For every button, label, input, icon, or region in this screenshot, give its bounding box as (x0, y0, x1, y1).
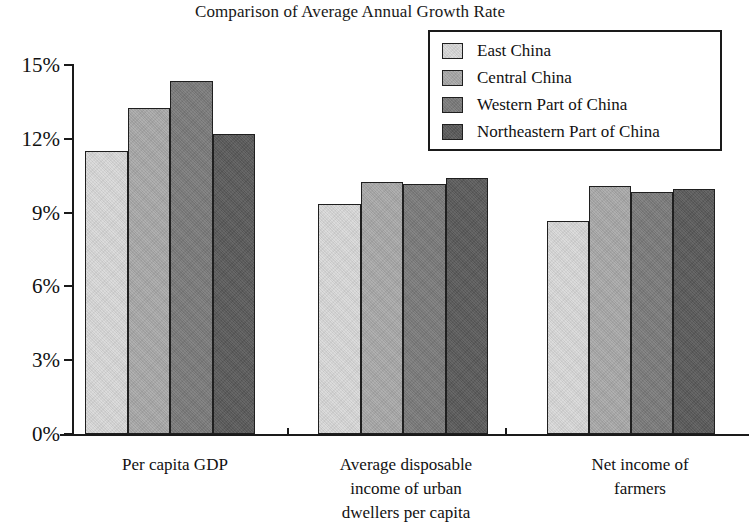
legend-label: Western Part of China (477, 95, 627, 115)
legend-item: Northeastern Part of China (442, 118, 720, 145)
bar-texture (214, 135, 255, 433)
bar-texture (319, 205, 360, 433)
legend-item: East China (442, 37, 720, 64)
bar (673, 189, 715, 434)
legend-swatch (442, 43, 463, 59)
legend-swatch-texture (443, 44, 462, 58)
legend-swatch-texture (443, 125, 462, 139)
bar (85, 151, 128, 434)
legend-label: Central China (477, 68, 572, 88)
category-label-line: Average disposable (290, 453, 522, 477)
x-axis-category-label: Average disposableincome of urbandweller… (290, 453, 522, 525)
growth-rate-bar-chart: Comparison of Average Annual Growth Rate… (0, 0, 749, 528)
bar-texture (171, 82, 212, 433)
bar-texture (590, 187, 630, 433)
legend-label: East China (477, 41, 551, 61)
category-label-line: dwellers per capita (290, 501, 522, 525)
legend-swatch (442, 70, 463, 86)
legend-item: Central China (442, 64, 720, 91)
bar-texture (129, 109, 170, 433)
bar (318, 204, 361, 434)
x-axis-category-label: Per capita GDP (60, 453, 290, 477)
bar (547, 221, 589, 434)
bar (403, 184, 446, 434)
bar-texture (548, 222, 588, 433)
legend-swatch (442, 97, 463, 113)
bar-texture (362, 183, 403, 433)
legend-item: Western Part of China (442, 91, 720, 118)
bar-texture (404, 185, 445, 433)
bar-texture (632, 193, 672, 433)
bar (213, 134, 256, 434)
bar (128, 108, 171, 434)
category-label-line: Per capita GDP (60, 453, 290, 477)
bar (446, 178, 489, 434)
legend-label: Northeastern Part of China (477, 122, 660, 142)
bar (170, 81, 213, 434)
legend-swatch (442, 124, 463, 140)
legend-swatch-texture (443, 71, 462, 85)
bar (631, 192, 673, 434)
x-axis-category-label: Net income offarmers (540, 453, 740, 501)
bar-texture (447, 179, 488, 433)
bar-texture (674, 190, 714, 433)
category-label-line: Net income of (540, 453, 740, 477)
category-label-line: income of urban (290, 477, 522, 501)
bar-texture (86, 152, 127, 433)
bar (361, 182, 404, 434)
chart-legend: East ChinaCentral ChinaWestern Part of C… (428, 30, 722, 151)
bar (589, 186, 631, 434)
legend-swatch-texture (443, 98, 462, 112)
category-label-line: farmers (540, 477, 740, 501)
